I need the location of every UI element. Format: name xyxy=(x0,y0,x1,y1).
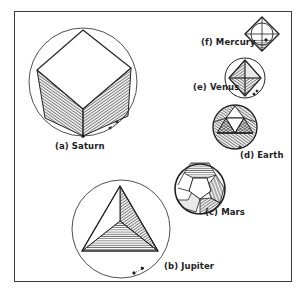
saturn-cube-figure xyxy=(29,28,137,137)
mars-label: (c) Mars xyxy=(205,207,245,217)
earth-label: (d) Earth xyxy=(240,150,284,160)
venus-label: (e) Venus xyxy=(193,82,239,92)
earth-icosahedron-figure xyxy=(213,105,257,149)
venus-octahedron-figure xyxy=(225,58,265,98)
jupiter-label: (b) Jupiter xyxy=(164,261,214,271)
planetary-solids-diagram xyxy=(0,0,304,292)
jupiter-tetrahedron-figure xyxy=(72,180,170,278)
saturn-label: (a) Saturn xyxy=(55,141,105,151)
mercury-label: (f) Mercury xyxy=(201,37,256,47)
